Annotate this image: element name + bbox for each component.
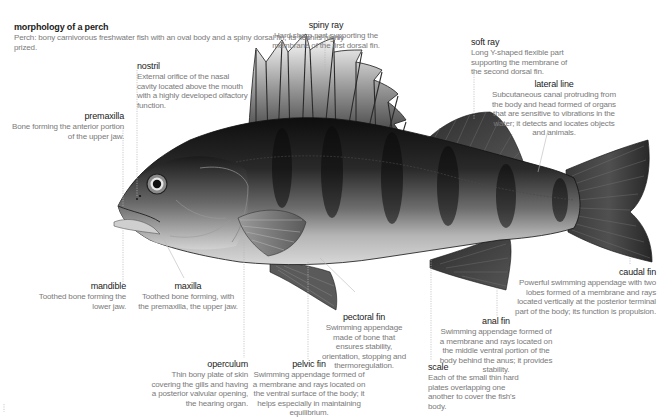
label-description: Thin bony plate of skin covering the gil… <box>151 370 248 408</box>
label-title: scale <box>428 362 532 373</box>
label-description: Bone forming the anterior portion of the… <box>12 122 124 141</box>
label-caudal-fin: caudal fin Powerful swimming appendage w… <box>510 267 656 316</box>
label-title: nostril <box>137 61 249 72</box>
label-description: Subcutaneous canal protruding from the b… <box>492 90 616 137</box>
label-soft-ray: soft ray Long Y-shaped flexible part sup… <box>471 37 573 77</box>
label-description: Toothed bone forming, with the premaxill… <box>138 292 238 311</box>
label-description: Powerful swimming appendage with two lob… <box>515 278 656 316</box>
label-title: pelvic fin <box>252 359 366 370</box>
label-title: pectoral fin <box>322 312 406 323</box>
label-title: spiny ray <box>268 20 384 31</box>
label-mandible: mandible Toothed bone forming the lower … <box>28 281 126 311</box>
label-premaxilla: premaxilla Bone forming the anterior por… <box>4 111 124 141</box>
label-description: Each of the small thin hard plates overl… <box>428 373 519 411</box>
label-title: anal fin <box>438 316 554 327</box>
label-description: Toothed bone forming the lower jaw. <box>39 292 126 311</box>
label-title: lateral line <box>490 79 618 90</box>
label-title: mandible <box>28 281 126 292</box>
label-description: Hard sharp part supporting the membrane … <box>272 31 380 50</box>
label-title: operculum <box>148 359 248 370</box>
label-title: soft ray <box>471 37 573 48</box>
fish-head <box>118 156 249 249</box>
label-description: External orifice of the nasal cavity loc… <box>137 72 248 110</box>
label-title: maxilla <box>138 281 238 292</box>
nostril-dot <box>139 195 141 197</box>
label-description: Swimming appendage formed of a membrane … <box>253 370 365 417</box>
label-title: premaxilla <box>4 111 124 122</box>
label-nostril: nostril External orifice of the nasal ca… <box>137 61 249 110</box>
label-scale: scale Each of the small thin hard plates… <box>428 362 532 411</box>
label-description: Long Y-shaped flexible part supporting t… <box>471 48 567 76</box>
label-spiny-ray: spiny ray Hard sharp part supporting the… <box>268 20 384 50</box>
pelvic-fin <box>270 262 337 310</box>
label-lateral-line: lateral line Subcutaneous canal protrudi… <box>490 79 618 138</box>
label-maxilla: maxilla Toothed bone forming, with the p… <box>138 281 238 311</box>
label-operculum: operculum Thin bony plate of skin coveri… <box>148 359 248 408</box>
label-pelvic-fin: pelvic fin Swimming appendage formed of … <box>252 359 366 418</box>
label-title: caudal fin <box>510 267 656 278</box>
